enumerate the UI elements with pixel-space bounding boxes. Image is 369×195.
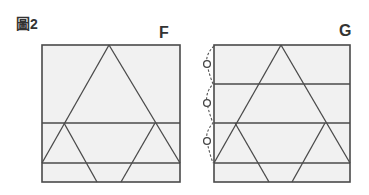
equal-mark-circle-2 <box>204 100 211 107</box>
panel-f-square <box>42 45 180 182</box>
diagram-canvas <box>0 0 369 195</box>
equal-mark-circle-1 <box>204 61 211 68</box>
panel-g-square <box>214 45 350 182</box>
panel-g <box>214 45 350 182</box>
equal-mark-circle-3 <box>204 138 211 145</box>
panel-g-annotation <box>204 46 214 163</box>
panel-f <box>42 45 180 182</box>
